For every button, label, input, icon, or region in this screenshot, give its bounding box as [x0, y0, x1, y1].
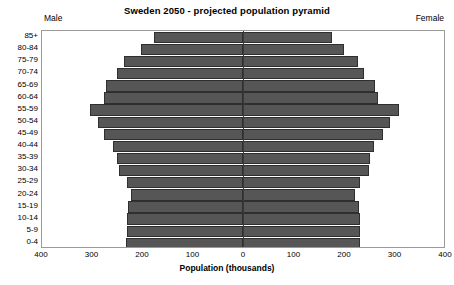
x-axis-tick-label: 100 — [287, 250, 300, 259]
bar-male — [128, 201, 243, 212]
zero-axis-line — [243, 31, 244, 247]
bar-male — [127, 226, 243, 237]
bar-female — [243, 201, 359, 212]
y-axis-tick-label: 20-24 — [18, 189, 38, 198]
bar-female — [243, 153, 370, 164]
axis-label-female: Female — [416, 13, 444, 23]
bar-male — [141, 44, 243, 55]
y-axis-tick-label: 45-49 — [18, 128, 38, 137]
population-pyramid-chart: Sweden 2050 - projected population pyram… — [0, 0, 454, 285]
bar-male — [127, 177, 243, 188]
bar-male — [117, 68, 243, 79]
bar-male — [113, 141, 243, 152]
x-axis-tick-label: 0 — [241, 250, 245, 259]
chart-title: Sweden 2050 - projected population pyram… — [0, 5, 454, 16]
bar-male — [119, 165, 243, 176]
bar-male — [124, 56, 243, 67]
y-axis-tick-label: 50-54 — [18, 116, 38, 125]
x-axis-tick-labels: 4003002001000100200300400 — [41, 250, 445, 262]
bar-male — [117, 153, 243, 164]
bar-female — [243, 80, 375, 91]
x-axis-tick-label: 200 — [337, 250, 350, 259]
bar-male — [90, 104, 243, 115]
y-axis-tick-label: 70-74 — [18, 67, 38, 76]
x-axis-tick-label: 400 — [438, 250, 451, 259]
bar-male — [131, 189, 243, 200]
plot-area — [41, 30, 445, 248]
bar-female — [243, 117, 390, 128]
y-axis-tick-label: 10-14 — [18, 213, 38, 222]
y-axis-tick-label: 80-84 — [18, 43, 38, 52]
x-axis-tick-label: 100 — [186, 250, 199, 259]
x-axis-tick-label: 400 — [34, 250, 47, 259]
bar-female — [243, 177, 360, 188]
x-axis-tick-label: 300 — [388, 250, 401, 259]
y-axis-tick-labels: 85+80-8475-7970-7465-6960-6455-5950-5445… — [0, 30, 38, 248]
bar-male — [98, 117, 243, 128]
bar-female — [243, 238, 360, 248]
bar-female — [243, 104, 399, 115]
y-axis-tick-label: 30-34 — [18, 164, 38, 173]
bar-female — [243, 189, 355, 200]
bar-female — [243, 92, 378, 103]
bar-male — [106, 80, 243, 91]
bar-male — [126, 238, 243, 248]
bar-female — [243, 213, 360, 224]
x-axis-tick-label: 300 — [85, 250, 98, 259]
y-axis-tick-label: 25-29 — [18, 176, 38, 185]
bar-male — [104, 129, 243, 140]
y-axis-tick-label: 85+ — [24, 31, 38, 40]
y-axis-tick-label: 5-9 — [26, 225, 38, 234]
bar-female — [243, 32, 332, 43]
y-axis-tick-label: 0-4 — [26, 237, 38, 246]
bar-female — [243, 44, 344, 55]
bar-female — [243, 56, 358, 67]
y-axis-tick-label: 55-59 — [18, 104, 38, 113]
bar-female — [243, 165, 369, 176]
y-axis-tick-label: 40-44 — [18, 140, 38, 149]
bar-male — [127, 213, 243, 224]
bar-female — [243, 141, 374, 152]
bar-female — [243, 226, 360, 237]
x-axis-tick-label: 200 — [135, 250, 148, 259]
y-axis-tick-label: 60-64 — [18, 92, 38, 101]
x-axis-title: Population (thousands) — [0, 263, 454, 273]
axis-label-male: Male — [44, 13, 62, 23]
y-axis-tick-label: 35-39 — [18, 152, 38, 161]
bar-male — [154, 32, 243, 43]
bar-female — [243, 68, 364, 79]
y-axis-tick-label: 65-69 — [18, 80, 38, 89]
bar-female — [243, 129, 383, 140]
y-axis-tick-label: 15-19 — [18, 201, 38, 210]
y-axis-tick-label: 75-79 — [18, 55, 38, 64]
bar-male — [104, 92, 243, 103]
